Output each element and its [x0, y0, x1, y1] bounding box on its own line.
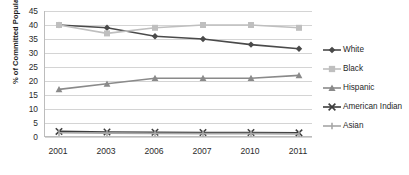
legend-item-asian[interactable]: Asian — [322, 116, 409, 135]
line-chart: % of Committed Population 45403530252015… — [0, 0, 409, 175]
data-point-diamond — [248, 41, 254, 47]
data-point-diamond — [152, 33, 158, 39]
data-point-square — [296, 25, 302, 31]
legend-label: White — [343, 45, 364, 54]
x-axis-tick-label: 2006 — [134, 146, 174, 156]
data-point-square — [56, 22, 62, 28]
data-point-square — [104, 30, 110, 36]
y-axis-tick-label: 5 — [16, 119, 38, 127]
legend-label: American Indian — [343, 102, 402, 111]
y-axis-tick-labels: 454035302520151050 — [16, 11, 38, 137]
x-axis-tick-label: 2001 — [38, 146, 78, 156]
data-point-square — [200, 22, 206, 28]
y-axis-tick-label: 10 — [16, 105, 38, 113]
legend: WhiteBlackHispanicAmerican IndianAsian — [322, 40, 409, 135]
y-axis-tick-label: 40 — [16, 21, 38, 29]
series-black — [56, 22, 302, 36]
legend-item-black[interactable]: Black — [322, 59, 409, 78]
data-point-diamond — [200, 36, 206, 42]
x-axis-tick-labels: 200120032006200720102011 — [0, 146, 409, 160]
x-axis-tick-label: 2007 — [182, 146, 222, 156]
legend-label: Asian — [343, 121, 363, 130]
x-axis-tick-label: 2011 — [278, 146, 318, 156]
data-point-square — [329, 65, 335, 71]
legend-marker-diamond-icon — [322, 44, 342, 56]
legend-marker-triangle-icon — [322, 82, 342, 94]
data-point-diamond — [296, 46, 302, 52]
y-axis-tick-label: 25 — [16, 63, 38, 71]
gridline — [45, 137, 312, 138]
legend-item-american-indian[interactable]: American Indian — [322, 97, 409, 116]
y-axis-tick-label: 0 — [16, 133, 38, 141]
legend-label: Black — [343, 64, 363, 73]
y-axis-tick-label: 20 — [16, 77, 38, 85]
series-asian — [59, 130, 299, 138]
legend-item-hispanic[interactable]: Hispanic — [322, 78, 409, 97]
x-axis-tick-label: 2010 — [230, 146, 270, 156]
series-hispanic — [56, 72, 303, 92]
x-axis-tick-label: 2003 — [86, 146, 126, 156]
y-axis-tick-label: 35 — [16, 35, 38, 43]
legend-marker-x-icon — [322, 101, 342, 113]
data-point-diamond — [329, 46, 336, 53]
plot-area — [44, 11, 312, 137]
legend-marker-dash-icon — [322, 120, 342, 132]
legend-label: Hispanic — [343, 83, 374, 92]
y-axis-tick-label: 45 — [16, 7, 38, 15]
series-layer — [45, 11, 313, 137]
y-axis-tick-label: 15 — [16, 91, 38, 99]
legend-marker-square-icon — [322, 63, 342, 75]
data-point-diamond — [104, 25, 110, 31]
y-axis-tick-label: 30 — [16, 49, 38, 57]
data-point-square — [248, 22, 254, 28]
series-american-indian — [56, 128, 302, 136]
data-point-square — [152, 25, 158, 31]
legend-item-white[interactable]: White — [322, 40, 409, 59]
